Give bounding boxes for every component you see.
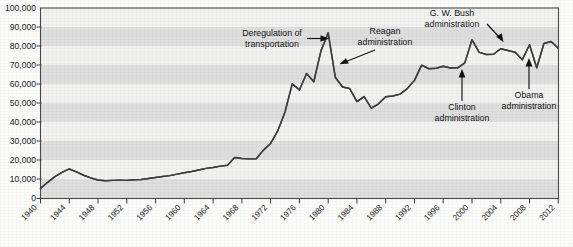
annotation-label-line2: administration — [425, 19, 480, 29]
x-tick-label: 2000 — [451, 203, 471, 223]
y-tick-label: 10,000 — [10, 174, 37, 184]
chart-figure: 100,000 90,000 80,000 70,000 60,000 50,0… — [0, 0, 573, 247]
x-tick-label: 1940 — [20, 203, 40, 223]
annotation-label-line1: Deregulation of — [242, 28, 302, 38]
x-tick-label: 2008 — [509, 203, 529, 223]
x-tick-label: 1952 — [106, 203, 126, 223]
x-tick-label: 1956 — [135, 203, 155, 223]
annotation-label-line2: administration — [502, 101, 557, 111]
annotation-label-line2: administration — [435, 113, 490, 123]
y-tick-label: 70,000 — [10, 60, 37, 70]
y-tick-label: 20,000 — [10, 155, 37, 165]
annotation-label-line1: Obama — [515, 90, 544, 100]
x-tick-label: 1980 — [307, 203, 327, 223]
y-tick-label: 30,000 — [10, 136, 37, 146]
y-tick-label: 60,000 — [10, 79, 37, 89]
annotation-label-line1: Reagan — [370, 26, 401, 36]
y-tick-label: 90,000 — [10, 22, 37, 32]
x-tick-label: 1968 — [221, 203, 241, 223]
x-tick-label: 1960 — [163, 203, 183, 223]
x-tick-label: 1984 — [336, 203, 356, 223]
annotation-label-line2: transportation — [245, 39, 299, 49]
x-tick-label: 1976 — [279, 203, 299, 223]
x-axis-tick-labels: 1940 1944 1948 1952 1956 1960 1964 1968 … — [20, 203, 557, 223]
x-tick-label: 1944 — [48, 203, 68, 223]
x-tick-label: 1988 — [365, 203, 385, 223]
y-tick-label: 0 — [31, 193, 36, 203]
x-tick-label: 1992 — [394, 203, 414, 223]
annotation-label-line1: Clinton — [448, 102, 475, 112]
y-tick-label: 80,000 — [10, 41, 37, 51]
x-tick-label: 2012 — [537, 203, 557, 223]
y-axis-tick-labels: 100,000 90,000 80,000 70,000 60,000 50,0… — [5, 3, 36, 203]
y-tick-label: 50,000 — [10, 98, 37, 108]
x-tick-label: 1948 — [77, 203, 97, 223]
line-chart-svg: 100,000 90,000 80,000 70,000 60,000 50,0… — [0, 0, 573, 247]
x-tick-label: 1996 — [422, 203, 442, 223]
x-tick-label: 1972 — [250, 203, 270, 223]
annotation-label-line2: administration — [358, 37, 413, 47]
annotation-label-line1: G. W. Bush — [430, 8, 475, 18]
y-tick-label: 40,000 — [10, 117, 37, 127]
y-tick-label: 100,000 — [5, 3, 36, 13]
x-tick-label: 1964 — [192, 203, 212, 223]
x-tick-label: 2004 — [480, 203, 500, 223]
